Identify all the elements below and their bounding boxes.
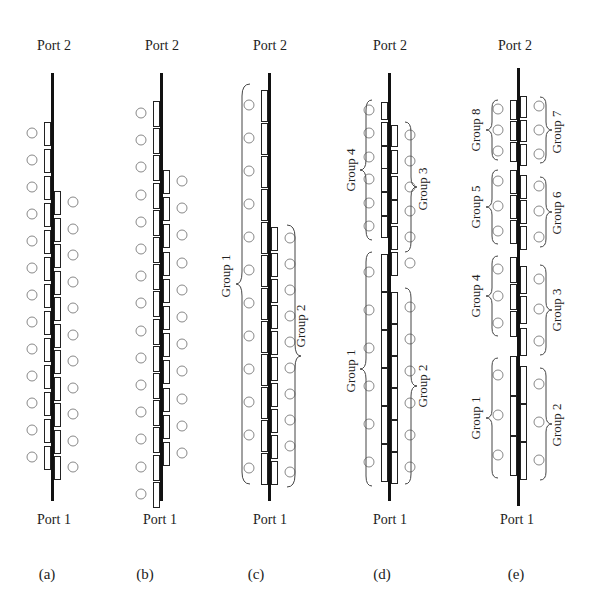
element-index-circle	[177, 176, 188, 187]
coupler-element	[153, 373, 160, 399]
coupler-element	[381, 122, 388, 146]
coupler-element	[520, 96, 527, 118]
element-index-circle	[27, 425, 38, 436]
coupler-element	[271, 357, 278, 381]
coupler-element	[381, 216, 388, 238]
coupler-element	[271, 435, 278, 459]
coupler-element	[163, 224, 170, 248]
element-index-circle	[136, 216, 147, 227]
element-index-circle	[68, 223, 79, 234]
coupler-element	[163, 360, 170, 384]
coupler-element	[381, 168, 388, 192]
coupler-element	[44, 446, 51, 470]
coupler-element	[54, 271, 61, 295]
coupler-element	[44, 338, 51, 362]
coupler-element	[520, 366, 527, 404]
caption-e: (e)	[508, 566, 525, 583]
coupler-element	[163, 279, 170, 303]
coupler-element	[261, 453, 268, 485]
element-index-circle	[136, 352, 147, 363]
element-index-circle	[27, 398, 38, 409]
coupler-element	[520, 328, 527, 356]
coupler-element	[44, 365, 51, 389]
coupler-element	[391, 150, 398, 174]
coupler-element	[163, 197, 170, 221]
coupler-element	[520, 404, 527, 442]
port-2-label: Port 2	[37, 38, 71, 54]
coupler-element	[381, 330, 388, 368]
group-4-label: Group 4	[343, 149, 359, 192]
group-8-label: Group 8	[468, 109, 484, 152]
coupler-element	[153, 101, 160, 127]
coupler-element	[54, 456, 61, 480]
port-1-label: Port 1	[37, 512, 71, 528]
coupler-element	[54, 324, 61, 348]
coupler-element	[163, 442, 170, 466]
coupler-element	[271, 409, 278, 433]
coupler-element	[381, 406, 388, 444]
coupler-element	[153, 210, 160, 236]
element-index-circle	[136, 108, 147, 119]
coupler-element	[261, 189, 268, 221]
element-index-circle	[27, 209, 38, 220]
coupler-element	[54, 297, 61, 321]
coupler-element	[44, 122, 51, 146]
coupler-element	[391, 125, 398, 147]
coupler-element	[163, 388, 170, 412]
element-index-circle	[177, 366, 188, 377]
coupler-element	[261, 255, 268, 287]
coupler-element	[153, 237, 160, 263]
element-index-circle	[177, 312, 188, 323]
coupler-element	[271, 253, 278, 277]
group-1-label: Group 1	[343, 350, 359, 393]
coupler-element	[510, 356, 517, 396]
element-index-circle	[177, 393, 188, 404]
brace-group-4	[490, 256, 500, 336]
element-index-circle	[177, 257, 188, 268]
coupler-element	[44, 203, 51, 227]
coupler-element	[520, 266, 527, 294]
coupler-element	[44, 311, 51, 335]
element-index-circle	[27, 344, 38, 355]
group-1-label: Group 1	[468, 397, 484, 440]
coupler-element	[271, 383, 278, 407]
port-2-label: Port 2	[373, 38, 407, 54]
element-index-circle	[68, 356, 79, 367]
element-index-circle	[136, 488, 147, 499]
coupler-element	[381, 292, 388, 330]
coupler-element	[391, 200, 398, 224]
element-index-circle	[68, 250, 79, 261]
group-6-label: Group 6	[549, 192, 565, 235]
coupler-element	[44, 392, 51, 416]
coupler-element	[391, 420, 398, 452]
coupler-element	[54, 403, 61, 427]
element-index-circle	[27, 452, 38, 463]
element-index-circle	[177, 284, 188, 295]
port-2-label: Port 2	[145, 38, 179, 54]
coupler-element	[520, 175, 527, 199]
coupler-element	[510, 142, 517, 162]
element-index-circle	[136, 298, 147, 309]
caption-d: (d)	[373, 566, 391, 583]
coupler-element	[153, 400, 160, 426]
coupler-element	[520, 144, 527, 166]
coupler-element	[391, 452, 398, 484]
element-index-circle	[177, 339, 188, 350]
coupler-element	[391, 252, 398, 276]
coupler-element	[261, 288, 268, 320]
port-1-label: Port 1	[143, 512, 177, 528]
coupler-element	[44, 176, 51, 200]
group-5-label: Group 5	[468, 186, 484, 229]
coupler-element	[381, 368, 388, 406]
coupler-element	[391, 388, 398, 420]
caption-c: (c)	[248, 566, 265, 583]
coupler-element	[381, 192, 388, 216]
group-2-label: Group 2	[415, 365, 431, 408]
group-3-label: Group 3	[549, 289, 565, 332]
coupler-element	[261, 354, 268, 386]
coupler-element	[153, 183, 160, 209]
coupler-element	[510, 396, 517, 436]
brace-group-3	[405, 122, 415, 252]
element-index-circle	[68, 382, 79, 393]
coupler-element	[510, 195, 517, 219]
